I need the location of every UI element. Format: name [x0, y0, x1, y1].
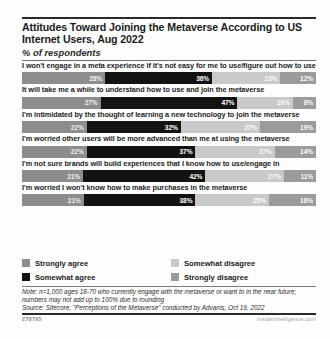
bar-segment-strongly-disagree[interactable]: 19%: [260, 121, 316, 133]
stacked-bar: 21%38%25%16%: [22, 194, 316, 206]
bar-segment-strongly-agree[interactable]: 28%: [22, 72, 105, 84]
bar-segment-strongly-agree[interactable]: 21%: [22, 170, 83, 182]
chart-row: I'm worried other users will be more adv…: [22, 135, 316, 157]
bar-category-label: It will take me a while to understand ho…: [22, 86, 316, 95]
page-title: Attitudes Toward Joining the Metaverse A…: [22, 21, 318, 46]
legend-label: Strongly agree: [35, 259, 88, 268]
chart-notes: Note: n=1,000 ages 18-70 who currently e…: [22, 288, 316, 311]
bar-segment-strongly-agree[interactable]: 22%: [22, 121, 87, 133]
chart-row: I'm worried I won't know how to make pur…: [22, 184, 316, 206]
legend-label: Strongly disagree: [184, 273, 248, 282]
chart-footer: 278795 insiderintelligence.com: [22, 316, 316, 322]
stacked-bar: 22%32%27%19%: [22, 121, 316, 133]
bar-segment-somewhat-disagree[interactable]: 23%: [212, 72, 280, 84]
chart-row: It will take me a while to understand ho…: [22, 86, 316, 108]
bar-segment-somewhat-agree[interactable]: 32%: [87, 121, 181, 133]
chart-row: I won't engage in a meta experience if i…: [22, 62, 316, 84]
chart-card: Attitudes Toward Joining the Metaverse A…: [0, 0, 330, 339]
chart-id: 278795: [22, 316, 42, 322]
bar-segment-somewhat-disagree[interactable]: 27%: [205, 170, 284, 182]
chart-header: Attitudes Toward Joining the Metaverse A…: [22, 21, 318, 58]
source-site[interactable]: insiderintelligence.com: [257, 316, 316, 322]
legend-item-strongly-agree[interactable]: Strongly agree: [22, 256, 167, 270]
legend-swatch-icon: [22, 273, 30, 281]
bar-segment-somewhat-agree[interactable]: 47%: [101, 97, 238, 109]
bar-segment-somewhat-disagree[interactable]: 27%: [181, 121, 260, 133]
bar-segment-strongly-agree[interactable]: 27%: [22, 97, 101, 109]
bar-segment-strongly-disagree[interactable]: 16%: [269, 194, 316, 206]
bar-segment-strongly-agree[interactable]: 21%: [22, 194, 84, 206]
chart-legend: Strongly agreeSomewhat disagreeSomewhat …: [22, 256, 316, 284]
source-text: Source: Sitecore, "Perceptions of the Me…: [22, 304, 316, 312]
bar-category-label: I'm worried other users will be more adv…: [22, 135, 316, 144]
bar-segment-somewhat-agree[interactable]: 38%: [84, 194, 196, 206]
legend-label: Somewhat agree: [35, 273, 95, 282]
bar-category-label: I'm not sure brands will build experienc…: [22, 160, 316, 169]
bar-segment-somewhat-agree[interactable]: 42%: [83, 170, 205, 182]
bar-category-label: I'm intimidated by the thought of learni…: [22, 111, 316, 120]
legend-label: Somewhat disagree: [184, 259, 255, 268]
legend-swatch-icon: [171, 273, 179, 281]
chart-subtitle: % of respondents: [22, 47, 318, 59]
top-divider: [22, 17, 316, 19]
bar-segment-somewhat-agree[interactable]: 36%: [105, 72, 212, 84]
bar-category-label: I'm worried I won't know how to make pur…: [22, 184, 316, 193]
footer-divider: [22, 313, 316, 315]
bar-segment-strongly-disagree[interactable]: 14%: [275, 146, 316, 158]
bar-segment-strongly-disagree[interactable]: 12%: [280, 72, 316, 84]
bar-category-label: I won't engage in a meta experience if i…: [22, 62, 316, 71]
legend-item-strongly-disagree[interactable]: Strongly disagree: [171, 270, 316, 284]
bar-segment-somewhat-disagree[interactable]: 19%: [237, 97, 292, 109]
bar-segment-somewhat-disagree[interactable]: 27%: [195, 146, 274, 158]
chart-row: I'm not sure brands will build experienc…: [22, 160, 316, 182]
legend-swatch-icon: [22, 259, 30, 267]
note-divider: [22, 286, 316, 287]
legend-item-somewhat-agree[interactable]: Somewhat agree: [22, 270, 167, 284]
stacked-bar: 28%36%23%12%: [22, 72, 316, 84]
chart-row: I'm intimidated by the thought of learni…: [22, 111, 316, 133]
legend-item-somewhat-disagree[interactable]: Somewhat disagree: [171, 256, 316, 270]
bar-segment-somewhat-disagree[interactable]: 25%: [195, 194, 269, 206]
bar-segment-somewhat-agree[interactable]: 37%: [87, 146, 196, 158]
bar-segment-strongly-disagree[interactable]: 11%: [284, 170, 316, 182]
stacked-bar: 27%47%19%8%: [22, 97, 316, 109]
bar-segment-strongly-agree[interactable]: 22%: [22, 146, 87, 158]
stacked-bar-plot: I won't engage in a meta experience if i…: [22, 62, 316, 208]
bar-segment-strongly-disagree[interactable]: 8%: [293, 97, 316, 109]
stacked-bar: 22%37%27%14%: [22, 146, 316, 158]
legend-swatch-icon: [171, 259, 179, 267]
note-text: Note: n=1,000 ages 18-70 who currently e…: [22, 288, 316, 304]
stacked-bar: 21%42%27%11%: [22, 170, 316, 182]
